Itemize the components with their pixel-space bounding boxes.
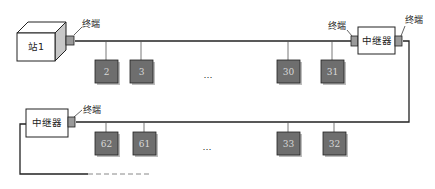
terminator-icon [66, 36, 74, 45]
bottom-node-61: 61 [133, 122, 158, 157]
terminator-icon [351, 36, 358, 46]
bottom-node-33: 33 [277, 122, 302, 157]
svg-text:33: 33 [283, 139, 295, 149]
station-label: 站1 [28, 41, 44, 52]
repeater-2: 中继器 [26, 109, 75, 137]
repeater-1: 中继器 [351, 27, 402, 54]
top-node-30: 30 [277, 41, 302, 85]
svg-text:2: 2 [104, 67, 110, 77]
svg-text:31: 31 [327, 67, 338, 77]
svg-text:61: 61 [139, 139, 150, 149]
ellipsis-bottom: … [203, 142, 212, 152]
bottom-node-62: 62 [95, 122, 120, 157]
svg-text:中继器: 中继器 [32, 117, 62, 128]
station-1: 站1 [17, 22, 66, 61]
terminator-label: 终端 [82, 18, 100, 29]
ellipsis-top: … [204, 70, 213, 80]
bottom-node-32: 32 [323, 122, 348, 157]
terminator-icon [395, 36, 402, 46]
svg-text:62: 62 [101, 139, 112, 149]
terminator-label: 终端 [328, 20, 346, 31]
network-diagram: 站1 终端 2 3 … 30 31 中继器 终端 终端 [0, 0, 435, 189]
svg-text:中继器: 中继器 [362, 35, 392, 46]
svg-text:32: 32 [329, 139, 340, 149]
terminator-label: 终端 [405, 14, 423, 25]
terminator-label: 终端 [83, 104, 101, 115]
top-node-31: 31 [321, 41, 346, 85]
svg-text:3: 3 [139, 67, 145, 77]
terminator-icon [68, 117, 75, 127]
svg-text:30: 30 [283, 67, 295, 77]
top-node-3: 3 [130, 41, 155, 85]
top-node-2: 2 [95, 41, 120, 85]
